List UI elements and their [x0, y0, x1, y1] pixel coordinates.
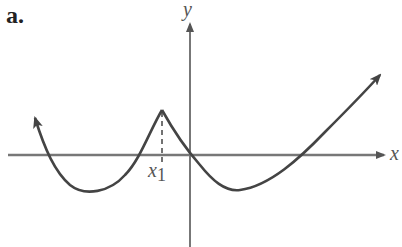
y-axis-label: y — [183, 0, 192, 21]
graph — [0, 0, 402, 247]
curve-left — [35, 110, 162, 192]
curve-right — [162, 75, 380, 190]
x-axis-label: x — [390, 142, 399, 165]
x1-label: x1 — [148, 159, 166, 182]
